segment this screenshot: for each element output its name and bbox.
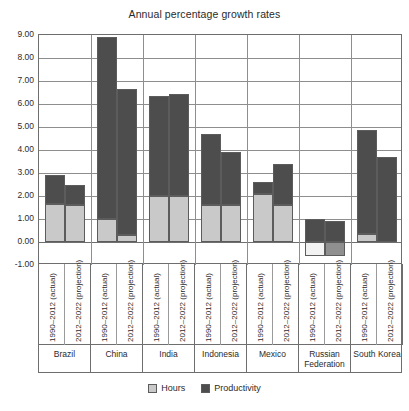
bar[interactable] — [305, 35, 325, 265]
period-label: 1990–2012 (actual) — [307, 273, 316, 342]
bar-segment-productivity — [221, 152, 241, 205]
legend-item[interactable]: Hours — [148, 383, 185, 393]
bar[interactable] — [221, 35, 241, 265]
period-label: 1990–2012 (actual) — [255, 273, 264, 342]
bar-segment-productivity — [117, 89, 137, 235]
bar-segment-productivity — [305, 219, 325, 242]
bar-segment-productivity — [253, 182, 273, 194]
y-axis-tick-label: 1.00 — [0, 213, 34, 223]
bar[interactable] — [201, 35, 221, 265]
bar-segment-productivity — [201, 134, 221, 205]
period-label: 1990–2012 (actual) — [151, 273, 160, 342]
bar-segment-productivity — [149, 96, 169, 196]
period-label-cell: 2012–2022 (projection) — [65, 264, 91, 345]
bar-segment-productivity — [325, 221, 345, 242]
bar-segment-hours — [149, 196, 169, 242]
period-label: 2012–2022 (projection) — [73, 260, 82, 342]
bar-segment-hours-negative — [325, 242, 345, 256]
bar-segment-hours — [253, 194, 273, 242]
country-label-band: BrazilChinaIndiaIndonesiaMexicoRussian F… — [38, 345, 402, 373]
chart-figure: Annual percentage growth rates 9.008.007… — [0, 0, 409, 411]
bar[interactable] — [65, 35, 85, 265]
y-axis-tick-label: 7.00 — [0, 75, 34, 85]
period-label-cell: 1990–2012 (actual) — [247, 264, 273, 345]
bar[interactable] — [273, 35, 293, 265]
period-label: 2012–2022 (projection) — [281, 260, 290, 342]
category-separator — [247, 35, 248, 265]
period-label: 2012–2022 (projection) — [333, 260, 342, 342]
y-axis-tick-label: 0.00 — [0, 236, 34, 246]
bar[interactable] — [97, 35, 117, 265]
bar[interactable] — [45, 35, 65, 265]
country-label: China — [91, 345, 143, 373]
category-separator — [143, 35, 144, 265]
legend-label: Hours — [161, 383, 185, 393]
legend-swatch-productivity-icon — [201, 384, 210, 393]
country-label: Indonesia — [195, 345, 247, 373]
bar[interactable] — [149, 35, 169, 265]
bar-segment-productivity — [357, 130, 377, 234]
bar-segment-hours — [117, 235, 137, 242]
bar-segment-hours — [45, 204, 65, 242]
period-label: 1990–2012 (actual) — [99, 273, 108, 342]
country-label: Mexico — [247, 345, 299, 373]
period-label: 2012–2022 (projection) — [177, 260, 186, 342]
period-label-cell: 2012–2022 (projection) — [377, 264, 403, 345]
bar-segment-productivity — [65, 185, 85, 206]
bar[interactable] — [169, 35, 189, 265]
category-separator — [351, 35, 352, 265]
country-label: South Korea — [351, 345, 403, 373]
period-label: 1990–2012 (actual) — [203, 273, 212, 342]
legend-item[interactable]: Productivity — [201, 383, 261, 393]
period-label-cell: 2012–2022 (projection) — [325, 264, 351, 345]
bar-segment-hours-negative — [305, 242, 325, 256]
bar[interactable] — [325, 35, 345, 265]
bar-segment-hours — [201, 205, 221, 242]
bar-segment-productivity — [97, 37, 117, 219]
bar[interactable] — [117, 35, 137, 265]
bar-segment-hours — [169, 196, 189, 242]
bar-segment-productivity — [45, 175, 65, 204]
y-axis-tick-label: -1.00 — [0, 259, 34, 269]
y-axis-tick-label: 4.00 — [0, 144, 34, 154]
bar-segment-hours — [357, 234, 377, 242]
period-label-cell: 1990–2012 (actual) — [351, 264, 377, 345]
bar[interactable] — [357, 35, 377, 265]
period-label: 1990–2012 (actual) — [359, 273, 368, 342]
category-separator — [91, 35, 92, 265]
period-label-cell: 1990–2012 (actual) — [195, 264, 221, 345]
period-label: 1990–2012 (actual) — [47, 273, 56, 342]
period-label-cell: 1990–2012 (actual) — [91, 264, 117, 345]
country-label: Russian Federation — [299, 345, 351, 373]
legend-label: Productivity — [214, 383, 261, 393]
bar[interactable] — [377, 35, 397, 265]
period-label-cell: 2012–2022 (projection) — [117, 264, 143, 345]
bar-segment-hours — [221, 205, 241, 242]
period-label-band: 1990–2012 (actual)2012–2022 (projection)… — [38, 264, 402, 345]
bar-segment-productivity — [169, 94, 189, 196]
category-separator — [299, 35, 300, 265]
bar-segment-hours — [273, 205, 293, 242]
chart-legend: HoursProductivity — [0, 383, 409, 393]
chart-title: Annual percentage growth rates — [0, 8, 409, 20]
bar-segment-hours — [65, 205, 85, 242]
y-axis-tick-label: 5.00 — [0, 121, 34, 131]
period-label-cell: 1990–2012 (actual) — [143, 264, 169, 345]
period-label-cell: 2012–2022 (projection) — [169, 264, 195, 345]
period-label: 2012–2022 (projection) — [229, 260, 238, 342]
period-label-cell: 2012–2022 (projection) — [273, 264, 299, 345]
bar[interactable] — [253, 35, 273, 265]
bar-segment-productivity — [273, 164, 293, 205]
y-axis-tick-label: 9.00 — [0, 29, 34, 39]
y-axis-tick-label: 3.00 — [0, 167, 34, 177]
plot-area — [38, 34, 402, 264]
y-axis-tick-label: 8.00 — [0, 52, 34, 62]
y-axis-tick-label: 6.00 — [0, 98, 34, 108]
country-label: Brazil — [39, 345, 91, 373]
bar-segment-productivity — [377, 157, 397, 242]
period-label-cell: 1990–2012 (actual) — [299, 264, 325, 345]
y-axis-tick-label: 2.00 — [0, 190, 34, 200]
period-label: 2012–2022 (projection) — [385, 260, 394, 342]
period-label-cell: 2012–2022 (projection) — [221, 264, 247, 345]
legend-swatch-hours-icon — [148, 384, 157, 393]
